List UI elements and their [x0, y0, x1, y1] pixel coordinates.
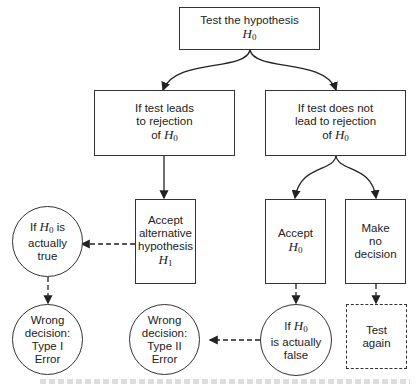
math-symbol: H — [40, 219, 49, 234]
math-symbol: H — [294, 318, 303, 333]
node-label: Accept — [278, 227, 313, 239]
node-label: If — [30, 221, 40, 233]
node-label: Test the hypothesis — [200, 14, 298, 26]
math-symbol: H — [335, 127, 344, 142]
math-symbol: H — [164, 127, 173, 142]
node-type-ii-error: Wrong decision: Type II Error — [129, 304, 200, 375]
math-symbol: H — [243, 26, 252, 41]
node-test-again: Test again — [346, 304, 407, 369]
node-label: Wrong decision: Type I Error — [25, 314, 70, 366]
math-subscript: 0 — [252, 32, 257, 42]
math-subscript: 0 — [344, 133, 349, 143]
node-test-hypothesis: Test the hypothesis H0 — [179, 7, 320, 50]
node-reject-h0: If test leads to rejection of H0 — [94, 90, 235, 156]
math-subscript: 1 — [168, 258, 173, 268]
cropped-caption-strip — [40, 379, 410, 384]
node-no-decision: Make no decision — [345, 199, 406, 284]
edge-test-notreject — [250, 50, 336, 90]
node-label: If — [284, 320, 294, 332]
node-not-reject-h0: If test does not lead to rejection of H0 — [265, 90, 406, 156]
node-accept-h0: AcceptH0 — [265, 199, 326, 284]
math-subscript: 0 — [298, 245, 303, 255]
math-subscript: 0 — [303, 324, 308, 334]
node-label: Make no decision — [354, 222, 396, 261]
node-h0-actually-true: If H0 is actually true — [12, 206, 83, 277]
node-label: is actually false — [271, 336, 322, 361]
node-label: Test again — [362, 324, 390, 350]
node-label: Accept alternative hypothesis — [138, 214, 193, 252]
edge-notreject-nodecision — [336, 156, 376, 198]
math-symbol: H — [159, 252, 168, 267]
node-type-i-error: Wrong decision: Type I Error — [12, 304, 83, 375]
edge-notreject-accepth0 — [295, 156, 336, 198]
node-h0-actually-false: If H0 is actually false — [260, 304, 332, 376]
math-subscript: 0 — [173, 133, 178, 143]
math-symbol: H — [289, 239, 298, 254]
edge-test-reject — [163, 50, 250, 90]
node-label: Wrong decision: Type II Error — [142, 314, 187, 366]
node-accept-alternative: Accept alternative hypothesisH1 — [135, 199, 196, 284]
